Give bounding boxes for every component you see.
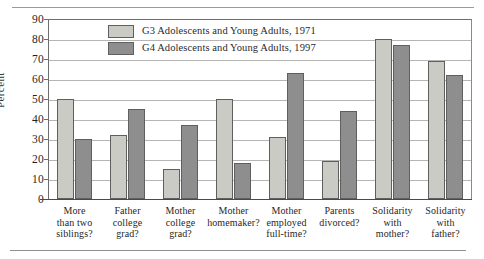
x-category-line: father? bbox=[413, 228, 478, 240]
y-tick-label-40: 40 bbox=[10, 113, 44, 125]
legend-swatch-g3 bbox=[108, 25, 134, 38]
legend-swatch-g4 bbox=[108, 42, 134, 55]
y-tick-label-90: 90 bbox=[10, 13, 44, 25]
legend-label: G4 Adolescents and Young Adults, 1997 bbox=[142, 41, 316, 55]
top-divider-rule bbox=[12, 7, 474, 8]
bar-group bbox=[313, 19, 366, 199]
bar bbox=[181, 125, 198, 199]
bar bbox=[216, 99, 233, 199]
bar bbox=[340, 111, 357, 199]
y-tick-label-50: 50 bbox=[10, 93, 44, 105]
legend-item: G3 Adolescents and Young Adults, 1971 bbox=[108, 24, 316, 38]
bar bbox=[287, 73, 304, 199]
y-tick-label-80: 80 bbox=[10, 33, 44, 45]
bar-chart-figure: Percent 9080706050403020100 G3 Adolescen… bbox=[0, 0, 484, 259]
bar-group bbox=[48, 19, 101, 199]
x-category-line: full-time? bbox=[254, 228, 319, 240]
bar bbox=[375, 39, 392, 199]
x-category-line: grad? bbox=[148, 228, 213, 240]
bar bbox=[393, 45, 410, 199]
legend-label: G3 Adolescents and Young Adults, 1971 bbox=[142, 24, 316, 38]
bar-group bbox=[366, 19, 419, 199]
bar-group bbox=[419, 19, 472, 199]
bar bbox=[128, 109, 145, 199]
x-category-label: Solidaritywithfather? bbox=[413, 205, 478, 240]
x-axis-category-labels: Morethan twosiblings?Fathercollegegrad?M… bbox=[48, 205, 472, 253]
y-tick-label-60: 60 bbox=[10, 73, 44, 85]
bar bbox=[428, 61, 445, 199]
bar bbox=[110, 135, 127, 199]
bar bbox=[446, 75, 463, 199]
x-axis-line bbox=[40, 199, 472, 200]
bar bbox=[234, 163, 251, 199]
bar bbox=[322, 161, 339, 199]
y-tick-label-30: 30 bbox=[10, 133, 44, 145]
y-tick-label-70: 70 bbox=[10, 53, 44, 65]
y-tick-label-20: 20 bbox=[10, 153, 44, 165]
x-category-line: with bbox=[413, 217, 478, 229]
bar bbox=[163, 169, 180, 199]
bar bbox=[75, 139, 92, 199]
legend-item: G4 Adolescents and Young Adults, 1997 bbox=[108, 41, 316, 55]
y-axis-tick-labels: 9080706050403020100 bbox=[0, 0, 44, 259]
x-category-line: Solidarity bbox=[413, 205, 478, 217]
bar bbox=[57, 99, 74, 199]
y-tick-label-10: 10 bbox=[10, 173, 44, 185]
chart-legend: G3 Adolescents and Young Adults, 1971G4 … bbox=[108, 24, 316, 58]
y-tick-label-0: 0 bbox=[10, 193, 44, 205]
bar bbox=[269, 137, 286, 199]
